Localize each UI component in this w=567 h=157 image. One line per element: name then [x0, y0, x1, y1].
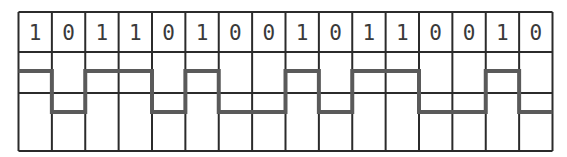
bit-label: 0 — [229, 21, 242, 45]
bit-label: 0 — [162, 21, 175, 45]
waveform-diagram: 1011010010110010 — [0, 0, 567, 157]
signal-waveform — [19, 71, 553, 112]
bit-label: 1 — [129, 21, 142, 45]
bit-label: 1 — [396, 21, 409, 45]
bit-label: 1 — [29, 21, 42, 45]
bit-label: 0 — [463, 21, 476, 45]
bit-label: 1 — [363, 21, 376, 45]
bit-label: 0 — [262, 21, 275, 45]
bit-label: 0 — [529, 21, 542, 45]
bit-label: 1 — [196, 21, 209, 45]
bit-label: 0 — [429, 21, 442, 45]
bit-label: 1 — [296, 21, 309, 45]
bit-label: 1 — [496, 21, 509, 45]
bit-label: 0 — [329, 21, 342, 45]
bit-label: 1 — [96, 21, 109, 45]
bit-label: 0 — [62, 21, 75, 45]
